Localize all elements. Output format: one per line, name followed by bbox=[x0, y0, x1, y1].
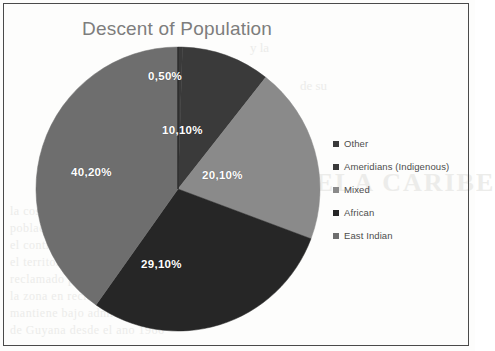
legend-swatch-icon bbox=[333, 141, 339, 147]
legend-item-label: African bbox=[344, 207, 374, 218]
chart-frame: Descent of Population 0,50% 10,10% 20,10… bbox=[3, 3, 469, 346]
legend-item-east-indian[interactable]: East Indian bbox=[333, 224, 465, 247]
legend-item-mixed[interactable]: Mixed bbox=[333, 178, 465, 201]
legend-item-ameridians[interactable]: Ameridians (Indigenous) bbox=[333, 155, 465, 178]
legend-item-label: East Indian bbox=[344, 230, 393, 241]
legend-item-african[interactable]: African bbox=[333, 201, 465, 224]
slice-label-east-indian: 40,20% bbox=[71, 166, 112, 178]
pie-slice-group bbox=[36, 47, 320, 331]
legend-swatch-icon bbox=[333, 233, 339, 239]
legend-item-label: Other bbox=[344, 138, 368, 149]
slice-label-other: 0,50% bbox=[148, 70, 182, 82]
chart-title: Descent of Population bbox=[82, 18, 272, 40]
legend-item-other[interactable]: Other bbox=[333, 132, 465, 155]
pie-svg bbox=[35, 46, 321, 332]
chart-legend: Other Ameridians (Indigenous) Mixed Afri… bbox=[333, 132, 465, 247]
legend-swatch-icon bbox=[333, 210, 339, 216]
slice-label-mixed: 20,10% bbox=[202, 169, 243, 181]
legend-item-label: Ameridians (Indigenous) bbox=[344, 161, 449, 172]
pie-chart: 0,50% 10,10% 20,10% 29,10% 40,20% bbox=[35, 46, 321, 332]
slice-label-ameridians: 10,10% bbox=[162, 124, 203, 136]
legend-swatch-icon bbox=[333, 164, 339, 170]
legend-item-label: Mixed bbox=[344, 184, 370, 195]
legend-swatch-icon bbox=[333, 187, 339, 193]
slice-label-african: 29,10% bbox=[141, 258, 182, 270]
